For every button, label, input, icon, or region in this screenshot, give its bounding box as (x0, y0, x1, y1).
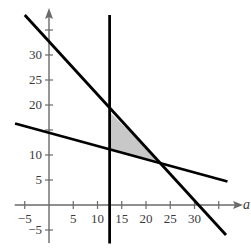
chart: −551015202530−5510202530a (0, 0, 251, 251)
y-tick-label: 5 (36, 172, 43, 187)
y-tick-label: 30 (29, 47, 42, 62)
x-tick-label: 5 (70, 211, 77, 226)
x-tick-label: 10 (91, 211, 104, 226)
x-tick-label: 30 (188, 211, 201, 226)
plot-area: −551015202530−5510202530a (0, 0, 251, 251)
y-tick-label: −5 (28, 222, 42, 237)
x-tick-label: 25 (164, 211, 177, 226)
y-tick-label: 10 (29, 147, 42, 162)
x-tick-label: 15 (115, 211, 128, 226)
series-line-1 (25, 15, 226, 235)
y-tick-label: 25 (29, 72, 42, 87)
x-tick-label: 20 (140, 211, 153, 226)
y-tick-label: 20 (29, 97, 42, 112)
x-axis-label: a (243, 197, 250, 212)
